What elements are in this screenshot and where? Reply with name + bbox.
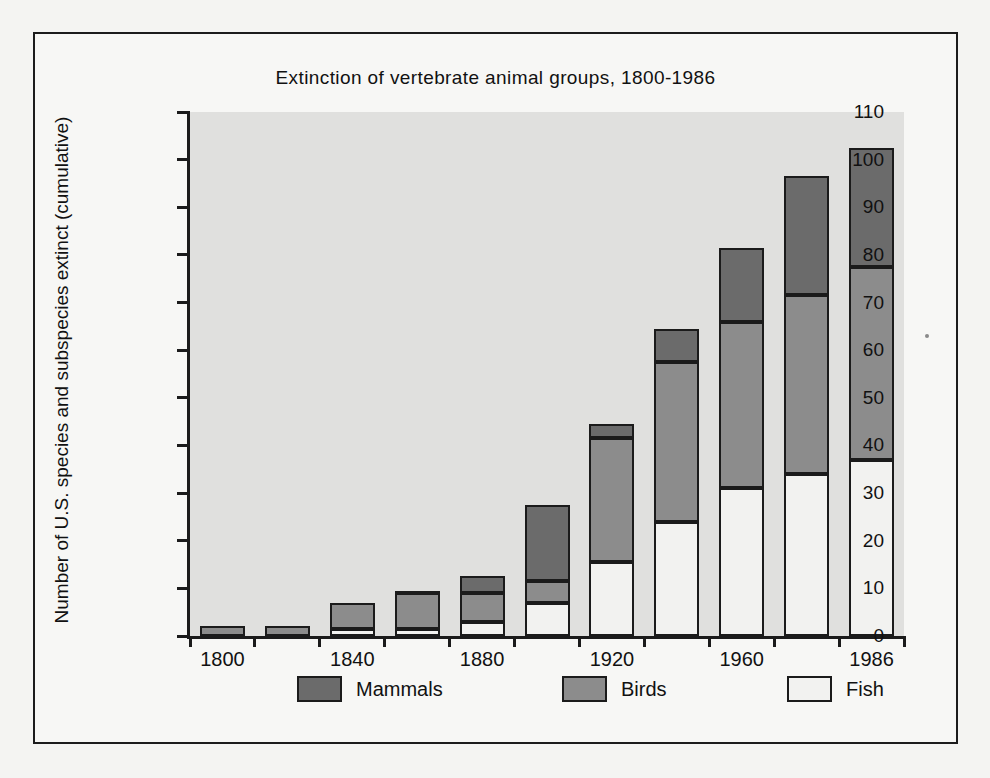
y-axis-tick — [177, 111, 190, 114]
bar-segment-fish[interactable] — [654, 522, 699, 636]
bar-segment-mammals[interactable] — [460, 576, 505, 593]
x-axis-tick — [903, 636, 906, 647]
bar-segment-birds[interactable] — [395, 593, 440, 629]
legend-item-mammals[interactable]: Mammals — [297, 676, 443, 702]
legend-item-birds[interactable]: Birds — [562, 676, 667, 702]
bar-segment-birds[interactable] — [654, 362, 699, 522]
x-axis-tick-label: 1840 — [330, 648, 375, 671]
y-axis-tick-label: 90 — [863, 196, 884, 218]
bar-segment-fish[interactable] — [719, 488, 764, 636]
x-axis-tick-label: 1960 — [719, 648, 764, 671]
x-axis-tick — [708, 636, 711, 647]
legend-label: Fish — [846, 678, 884, 701]
bar-1960[interactable] — [719, 112, 764, 636]
decorative-speck — [925, 334, 929, 338]
y-axis-tick-label: 40 — [863, 434, 884, 456]
bar-segment-mammals[interactable] — [395, 591, 440, 595]
legend-swatch-birds — [562, 676, 607, 702]
chart-title: Extinction of vertebrate animal groups, … — [35, 67, 956, 89]
y-axis-tick — [177, 396, 190, 399]
y-axis-tick-label: 50 — [863, 387, 884, 409]
x-axis-tick — [253, 636, 256, 647]
bar-segment-birds[interactable] — [460, 593, 505, 622]
bar-segment-fish[interactable] — [589, 562, 634, 636]
y-axis-tick-label: 110 — [854, 101, 884, 123]
y-axis-tick — [177, 587, 190, 590]
bar-1880[interactable] — [460, 112, 505, 636]
plot-area: 0102030405060708090100110180018401880192… — [187, 112, 904, 639]
x-axis-tick — [643, 636, 646, 647]
bar-segment-mammals[interactable] — [589, 424, 634, 438]
y-axis-tick-label: 10 — [863, 577, 884, 599]
x-axis-tick — [318, 636, 321, 647]
y-axis-title: Number of U.S. species and subspecies ex… — [51, 100, 73, 640]
bar-segment-mammals[interactable] — [525, 505, 570, 581]
y-axis-tick — [177, 444, 190, 447]
y-axis-tick-label: 0 — [873, 625, 884, 647]
x-axis-tick — [578, 636, 581, 647]
x-axis-tick — [448, 636, 451, 647]
y-axis-tick-label: 80 — [863, 244, 884, 266]
bar-segment-birds[interactable] — [784, 295, 829, 474]
bar-segment-birds[interactable] — [719, 322, 764, 489]
y-axis-tick-label: 100 — [852, 149, 884, 171]
plot-inner — [190, 112, 904, 636]
x-axis-tick — [513, 636, 516, 647]
bar-1920[interactable] — [589, 112, 634, 636]
x-axis-tick-label: 1986 — [849, 648, 894, 671]
y-axis-tick-label: 70 — [863, 292, 884, 314]
legend-item-fish[interactable]: Fish — [787, 676, 884, 702]
bar-1860[interactable] — [395, 112, 440, 636]
y-axis-tick — [177, 158, 190, 161]
x-axis-tick — [773, 636, 776, 647]
bar-segment-birds[interactable] — [525, 581, 570, 602]
y-axis-tick — [177, 349, 190, 352]
x-axis-tick — [189, 636, 192, 647]
legend-swatch-mammals — [297, 676, 342, 702]
legend-label: Birds — [621, 678, 667, 701]
x-axis-tick — [838, 636, 841, 647]
bar-segment-fish[interactable] — [460, 622, 505, 636]
x-axis-tick-label: 1800 — [200, 648, 245, 671]
y-axis-tick — [177, 539, 190, 542]
chart-figure: Extinction of vertebrate animal groups, … — [33, 32, 958, 744]
bar-1986[interactable] — [849, 112, 894, 636]
bar-1820[interactable] — [265, 112, 310, 636]
legend-label: Mammals — [356, 678, 443, 701]
y-axis-tick-label: 30 — [863, 482, 884, 504]
bar-segment-mammals[interactable] — [719, 248, 764, 322]
bar-1800[interactable] — [200, 112, 245, 636]
y-axis-tick — [177, 301, 190, 304]
bar-segment-fish[interactable] — [395, 629, 440, 636]
bar-segment-birds[interactable] — [200, 626, 245, 636]
y-axis-tick-label: 20 — [863, 530, 884, 552]
y-axis-tick-label: 60 — [863, 339, 884, 361]
y-axis-tick — [177, 492, 190, 495]
bar-segment-fish[interactable] — [330, 629, 375, 636]
bar-1940[interactable] — [654, 112, 699, 636]
bar-segment-fish[interactable] — [525, 603, 570, 636]
chart-legend: MammalsBirdsFish — [187, 676, 901, 716]
y-axis-tick — [177, 206, 190, 209]
y-axis-tick — [177, 253, 190, 256]
x-axis-tick-label: 1920 — [590, 648, 635, 671]
x-axis-tick — [383, 636, 386, 647]
bar-1980[interactable] — [784, 112, 829, 636]
bar-1900[interactable] — [525, 112, 570, 636]
x-axis-tick-label: 1880 — [460, 648, 505, 671]
bar-segment-birds[interactable] — [330, 603, 375, 629]
bar-segment-birds[interactable] — [265, 626, 310, 636]
legend-swatch-fish — [787, 676, 832, 702]
bar-segment-birds[interactable] — [589, 438, 634, 562]
bar-1840[interactable] — [330, 112, 375, 636]
bar-segment-mammals[interactable] — [784, 176, 829, 295]
bar-segment-mammals[interactable] — [654, 329, 699, 362]
bar-segment-fish[interactable] — [784, 474, 829, 636]
